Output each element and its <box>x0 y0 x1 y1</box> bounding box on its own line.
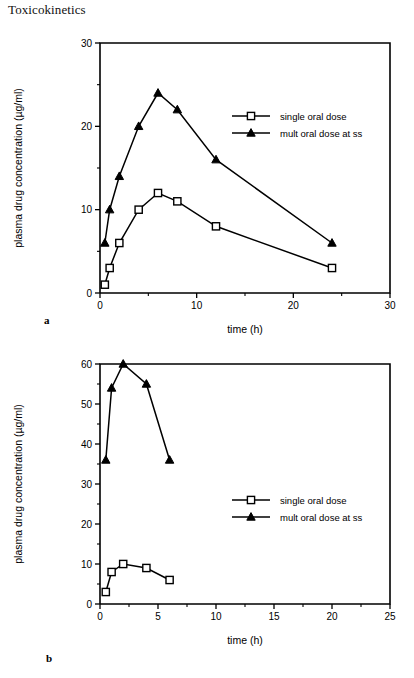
legend-label: single oral dose <box>280 111 347 122</box>
legend-label: mult oral dose at ss <box>280 128 363 139</box>
data-point-open-square <box>116 239 123 246</box>
y-tick-label: 0 <box>86 288 92 299</box>
data-point-filled-triangle <box>115 172 123 180</box>
x-tick-label: 0 <box>97 611 103 622</box>
chart-a: 01020300102030time (h)plasma drug concen… <box>0 28 414 348</box>
series-single-oral-dose <box>101 189 335 288</box>
panel-label-b: b <box>46 652 52 664</box>
legend-marker-open-square <box>247 112 254 119</box>
data-point-open-square <box>101 281 108 288</box>
data-point-open-square <box>120 560 127 567</box>
y-tick-label: 20 <box>81 121 93 132</box>
data-point-filled-triangle <box>154 89 162 97</box>
data-point-filled-triangle <box>107 384 115 392</box>
y-tick-label: 20 <box>81 519 93 530</box>
data-point-open-square <box>212 223 219 230</box>
figure-panel-b: 01020304050600510152025time (h)plasma dr… <box>0 352 414 678</box>
y-tick-label: 40 <box>81 439 93 450</box>
y-tick-label: 30 <box>81 479 93 490</box>
data-point-open-square <box>174 198 181 205</box>
x-tick-label: 10 <box>210 611 222 622</box>
legend-label: single oral dose <box>280 495 347 506</box>
data-point-filled-triangle <box>328 239 336 247</box>
x-tick-label: 0 <box>97 300 103 311</box>
x-tick-label: 5 <box>155 611 161 622</box>
figure-panel-a: 01020300102030time (h)plasma drug concen… <box>0 28 414 348</box>
y-tick-label: 50 <box>81 399 93 410</box>
data-point-open-square <box>106 264 113 271</box>
data-point-open-square <box>166 576 173 583</box>
data-point-open-square <box>102 588 109 595</box>
legend-label: mult oral dose at ss <box>280 512 363 523</box>
data-point-filled-triangle <box>165 456 173 464</box>
y-axis-title: plasma drug concentration (µg/ml) <box>12 88 24 248</box>
data-point-open-square <box>328 264 335 271</box>
data-point-filled-triangle <box>102 456 110 464</box>
legend-marker-open-square <box>247 496 254 503</box>
x-tick-label: 20 <box>326 611 338 622</box>
chart-b: 01020304050600510152025time (h)plasma dr… <box>0 352 414 652</box>
panel-label-a: a <box>44 314 50 326</box>
y-axis-title: plasma drug concentration (µg/ml) <box>12 404 24 564</box>
x-tick-label: 10 <box>191 300 203 311</box>
x-axis-title: time (h) <box>227 323 263 335</box>
y-tick-label: 10 <box>81 559 93 570</box>
series-mult-oral-dose-at-ss <box>102 360 174 464</box>
series-line <box>106 364 170 460</box>
running-head: Toxicokinetics <box>8 2 86 18</box>
data-point-open-square <box>135 206 142 213</box>
data-point-filled-triangle <box>101 239 109 247</box>
data-point-filled-triangle <box>134 122 142 130</box>
y-tick-label: 30 <box>81 38 93 49</box>
data-point-filled-triangle <box>105 205 113 213</box>
y-tick-label: 60 <box>81 359 93 370</box>
x-tick-label: 20 <box>288 300 300 311</box>
chart-legend: single oral dosemult oral dose at ss <box>232 111 363 139</box>
series-single-oral-dose <box>102 560 173 595</box>
x-tick-label: 25 <box>384 611 396 622</box>
data-point-open-square <box>108 568 115 575</box>
y-tick-label: 0 <box>86 599 92 610</box>
data-point-open-square <box>143 564 150 571</box>
x-axis-title: time (h) <box>227 634 263 646</box>
x-tick-label: 30 <box>384 300 396 311</box>
plot-frame <box>100 43 390 293</box>
x-tick-label: 15 <box>268 611 280 622</box>
chart-legend: single oral dosemult oral dose at ss <box>232 495 363 523</box>
y-tick-label: 10 <box>81 204 93 215</box>
data-point-open-square <box>154 189 161 196</box>
